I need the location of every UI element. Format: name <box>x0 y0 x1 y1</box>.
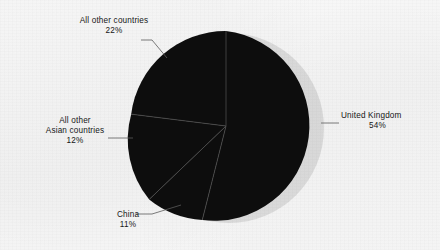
slice-label-name: China <box>92 210 164 220</box>
slice-label-name: United Kingdom <box>341 111 437 121</box>
slice-label-value: 12% <box>20 136 130 146</box>
pie-chart-figure: All other countries 22% United Kingdom 5… <box>0 0 440 250</box>
slice-label-name: All other countries <box>58 16 170 26</box>
slice-label-value: 11% <box>92 220 164 230</box>
slice-label-china: China 11% <box>92 210 164 230</box>
slice-label-value: 54% <box>341 121 414 131</box>
pie-slice-all-other-countries[interactable] <box>131 31 226 126</box>
slice-label-value: 22% <box>58 26 170 36</box>
slice-label-all-other-asian-countries: All other Asian countries 12% <box>20 116 130 146</box>
slice-label-united-kingdom: United Kingdom 54% <box>341 111 437 131</box>
slice-label-name-line2: Asian countries <box>20 126 130 136</box>
slice-label-all-other-countries: All other countries 22% <box>58 16 170 36</box>
slice-label-name-line1: All other <box>20 116 130 126</box>
